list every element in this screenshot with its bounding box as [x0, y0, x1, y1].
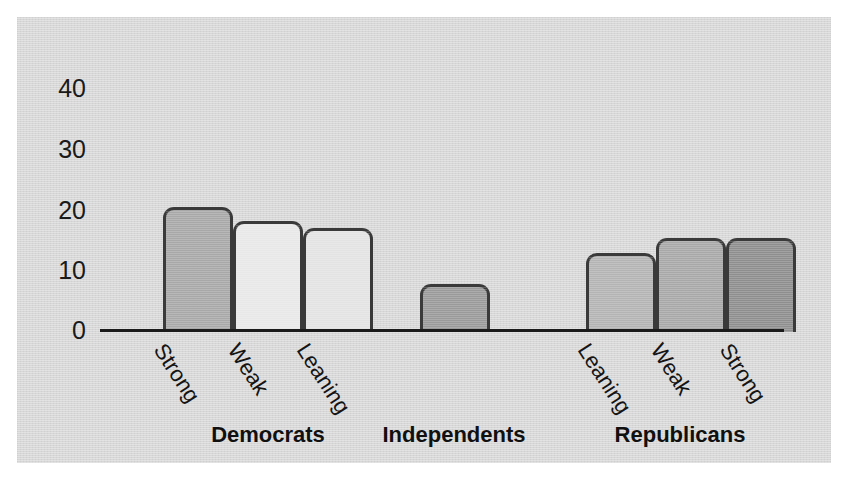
bar-texture	[659, 241, 723, 332]
bar-democrats-weak	[233, 221, 303, 332]
bar-democrats-strong	[163, 207, 233, 332]
group-label-independents: Independents	[382, 424, 525, 446]
bar-democrats-leaning	[303, 228, 373, 332]
bars-layer	[0, 0, 848, 477]
bar-texture	[236, 224, 300, 332]
bar-texture	[589, 256, 653, 332]
bar-republicans-leaning	[586, 253, 656, 332]
bar-texture	[729, 241, 793, 332]
bar-independents	[420, 284, 490, 332]
bar-chart-figure: 40 30 20 10 0 St	[0, 0, 848, 477]
bar-texture	[166, 210, 230, 332]
bar-republicans-weak	[656, 238, 726, 332]
bar-texture	[423, 287, 487, 332]
group-label-democrats: Democrats	[211, 424, 325, 446]
bar-texture	[306, 231, 370, 332]
bar-republicans-strong	[726, 238, 796, 332]
group-label-republicans: Republicans	[615, 424, 746, 446]
x-axis-line	[100, 329, 784, 332]
